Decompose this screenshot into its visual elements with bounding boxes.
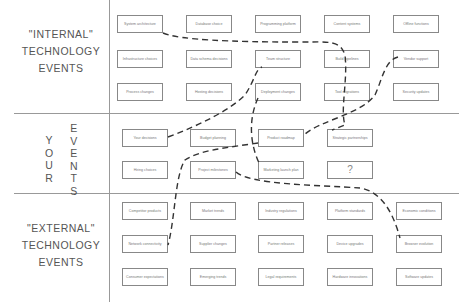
- event-box: Market trends: [190, 202, 236, 220]
- label-line: "EXTERNAL": [18, 220, 104, 237]
- letter: T: [71, 172, 77, 185]
- event-box: Software updates: [396, 268, 442, 286]
- label-line: TECHNOLOGY: [18, 43, 104, 60]
- letter: R: [45, 172, 53, 185]
- unknown-event-box: ?: [327, 161, 373, 179]
- event-box: Economic conditions: [396, 202, 442, 220]
- row-label-external: "EXTERNAL" TECHNOLOGY EVENTS: [18, 220, 104, 271]
- event-box: Programming platform: [255, 15, 301, 33]
- label-line: EVENTS: [18, 254, 104, 271]
- letter: N: [70, 160, 78, 173]
- event-box: Network connectivity: [122, 235, 168, 253]
- event-box: Database choice: [186, 15, 232, 33]
- vertical-divider: [109, 0, 110, 302]
- label-line: "INTERNAL": [18, 26, 104, 43]
- row-label-events: E V E N T S: [70, 122, 78, 197]
- dashed-path-2: [168, 67, 262, 137]
- dashed-path-1: [163, 33, 346, 130]
- event-box: System architecture: [117, 15, 163, 33]
- event-box: Process changes: [117, 83, 163, 101]
- event-box: Partner releases: [258, 235, 304, 253]
- event-box: Data schema decisions: [186, 50, 232, 68]
- event-box: Marketing launch plan: [258, 161, 304, 179]
- event-box: Tool migrations: [324, 83, 370, 101]
- event-box: Hosting decisions: [186, 83, 232, 101]
- letter: U: [45, 159, 53, 172]
- event-box: Browser evolution: [396, 235, 442, 253]
- dashed-path-5: [168, 143, 258, 245]
- label-line: EVENTS: [18, 60, 104, 77]
- event-box: Legal requirements: [258, 268, 304, 286]
- letter: V: [70, 135, 77, 148]
- event-box: Team structure: [255, 50, 301, 68]
- letter: O: [45, 147, 53, 160]
- event-box: Build pipelines: [324, 50, 370, 68]
- divider-internal-your: [14, 113, 459, 114]
- letter: E: [70, 122, 77, 135]
- event-box: Industry regulations: [258, 202, 304, 220]
- event-box: Project milestones: [190, 161, 236, 179]
- divider-your-external: [14, 193, 459, 194]
- event-box: Your decisions: [122, 129, 168, 147]
- label-line: TECHNOLOGY: [18, 237, 104, 254]
- event-box: Vendor support: [393, 50, 439, 68]
- row-label-your: Y O U R: [45, 134, 53, 184]
- event-box: Supplier changes: [190, 235, 236, 253]
- event-box: Hardware innovations: [327, 268, 373, 286]
- letter: Y: [46, 134, 53, 147]
- event-box: Consumer expectations: [122, 268, 168, 286]
- event-box: Strategic partnerships: [327, 129, 373, 147]
- event-box: Emerging trends: [190, 268, 236, 286]
- event-box: Product roadmap: [258, 129, 304, 147]
- event-box: Deployment changes: [255, 83, 301, 101]
- event-box: Platform standards: [327, 202, 373, 220]
- event-box: Hiring choices: [122, 161, 168, 179]
- event-box: Competitor products: [122, 202, 168, 220]
- event-box: Budget planning: [190, 129, 236, 147]
- event-box: Content systems: [324, 15, 370, 33]
- letter: E: [70, 147, 77, 160]
- event-box: Infrastructure choices: [117, 50, 163, 68]
- event-box: Security updates: [393, 83, 439, 101]
- letter: S: [70, 185, 77, 198]
- row-label-internal: "INTERNAL" TECHNOLOGY EVENTS: [18, 26, 104, 77]
- event-box: Offline functions: [393, 15, 439, 33]
- event-box: Device upgrades: [327, 235, 373, 253]
